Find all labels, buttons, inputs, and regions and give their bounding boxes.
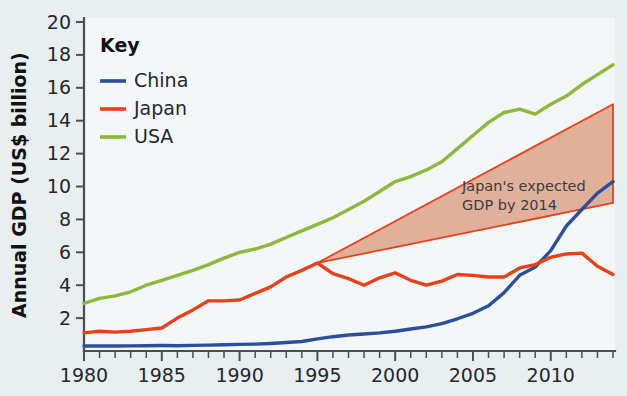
x-tick-label: 1990 (215, 364, 263, 386)
y-tick-label: 2 (59, 307, 71, 329)
y-tick-label: 20 (47, 11, 71, 33)
y-axis-title: Annual GDP (US$ billion) (8, 52, 30, 318)
y-tick-label: 6 (59, 241, 71, 263)
y-tick-label: 16 (47, 76, 71, 98)
y-tick-label: 10 (47, 175, 71, 197)
legend-title: Key (100, 34, 140, 56)
x-tick-label: 1985 (138, 364, 186, 386)
annotation-text-line-2: GDP by 2014 (462, 197, 557, 213)
legend-label-china[interactable]: China (134, 69, 188, 91)
y-tick-label: 18 (47, 43, 71, 65)
chart-canvas: Annual GDP (US$ billion) 246810121416182… (0, 0, 627, 396)
x-tick-label: 2000 (371, 364, 419, 386)
x-tick-label: 2010 (527, 364, 575, 386)
x-tick-label: 2005 (449, 364, 497, 386)
gdp-line-chart: Annual GDP (US$ billion) 246810121416182… (0, 0, 627, 396)
y-tick-label: 14 (47, 109, 71, 131)
y-tick-label: 4 (59, 274, 71, 296)
y-tick-label: 8 (59, 208, 71, 230)
x-tick-label: 1995 (293, 364, 341, 386)
y-tick-label: 12 (47, 142, 71, 164)
annotation-text-line-1: Japan's expected (461, 178, 586, 194)
x-tick-label: 1980 (60, 364, 108, 386)
legend-label-japan[interactable]: Japan (133, 97, 187, 119)
legend-label-usa[interactable]: USA (134, 125, 173, 147)
